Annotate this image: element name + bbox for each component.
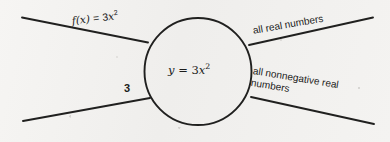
input-coefficient-label: 3 (124, 82, 130, 95)
input-function-exponent: 2 (113, 9, 118, 17)
machine-rule-label: y = 3x2 (168, 62, 210, 77)
machine-rule-exponent: 2 (205, 62, 210, 71)
diagram-canvas: f(x) = 3x2 3 y = 3x2 all real numbers al… (0, 0, 390, 142)
machine-rule-equals: = 3 (175, 63, 199, 77)
output-line-bottom-connector (251, 97, 374, 124)
input-line-bottom-connector (23, 98, 150, 121)
input-function-equals: = 3 (89, 10, 108, 24)
